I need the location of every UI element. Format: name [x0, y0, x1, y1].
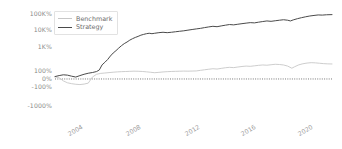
- y-axis: 100K%10K%1K%100%0%-100%-1000%: [0, 0, 52, 149]
- x-tick-label: 2008: [125, 124, 142, 137]
- x-tick-label: 2004: [67, 124, 84, 137]
- legend[interactable]: BenchmarkStrategy: [54, 11, 118, 35]
- y-tick-label: 10K%: [34, 27, 52, 33]
- legend-label: Benchmark: [76, 16, 112, 22]
- legend-swatch-strategy-icon: [58, 27, 72, 28]
- x-tick-label: 2012: [184, 124, 201, 137]
- y-tick-label: 100K%: [30, 11, 52, 17]
- legend-item-benchmark[interactable]: Benchmark: [58, 15, 112, 24]
- y-tick-label: -100%: [32, 84, 52, 90]
- y-tick-label: 0%: [42, 76, 52, 82]
- x-tick-label: 2020: [297, 124, 314, 137]
- x-tick-label: 2016: [240, 124, 257, 137]
- cumulative-returns-chart: 100K%10K%1K%100%0%-100%-1000% 2004200820…: [0, 0, 342, 149]
- y-tick-label: 1K%: [38, 44, 52, 50]
- legend-label: Strategy: [76, 24, 103, 30]
- legend-item-strategy[interactable]: Strategy: [58, 23, 112, 32]
- y-tick-label: -1000%: [28, 103, 52, 109]
- legend-swatch-benchmark-icon: [58, 18, 72, 19]
- y-tick-label: 100%: [34, 68, 52, 74]
- series-line-benchmark: [55, 63, 332, 85]
